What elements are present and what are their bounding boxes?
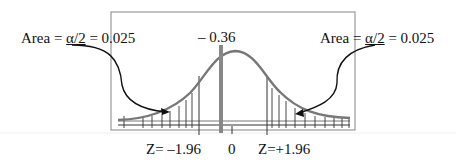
right-arrow (299, 45, 375, 113)
left-area-prefix: Area = (21, 30, 66, 46)
diagram-canvas: Area = α/2 = 0.025 Area = α/2 = 0.025 – … (0, 0, 456, 163)
right-arrow-head (295, 109, 304, 117)
left-tail-area-label: Area = α/2 = 0.025 (21, 31, 135, 46)
mean-label: 0 (228, 142, 236, 157)
right-alpha-fraction: α/2 (365, 30, 385, 46)
right-area-prefix: Area = (320, 30, 365, 46)
test-statistic-label: – 0.36 (198, 30, 236, 45)
right-area-suffix: = 0.025 (385, 30, 435, 46)
test-statistic-bar (219, 45, 223, 133)
left-critical-value-label: Z= –1.96 (146, 142, 201, 157)
right-critical-value-label: Z=+1.96 (258, 142, 310, 157)
normal-curve-figure (0, 0, 456, 163)
left-area-suffix: = 0.025 (86, 30, 136, 46)
right-tail-area-label: Area = α/2 = 0.025 (320, 31, 434, 46)
left-alpha-fraction: α/2 (66, 30, 86, 46)
left-arrow (72, 45, 166, 112)
